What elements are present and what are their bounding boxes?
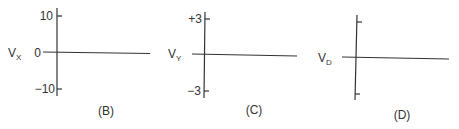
y-axis-label: V bbox=[318, 51, 326, 65]
waveform-diagram: 10 0 −10 V X (B) +3 −3 V Y (C) V D (D) bbox=[0, 0, 459, 129]
y-axis-label-sub: X bbox=[16, 53, 22, 62]
y-axis-label-sub: D bbox=[326, 58, 332, 67]
y-axis-label: V bbox=[8, 46, 16, 60]
trace-line bbox=[192, 54, 297, 56]
panel-caption: (B) bbox=[98, 104, 114, 118]
y-axis-label: V bbox=[168, 47, 176, 61]
tick-label-zero: 0 bbox=[34, 46, 41, 60]
tick-label-top: +3 bbox=[188, 12, 202, 26]
tick-label-bottom: −10 bbox=[35, 82, 56, 96]
panel-c: +3 −3 V Y (C) bbox=[168, 12, 297, 117]
panel-b: 10 0 −10 V X (B) bbox=[8, 8, 150, 118]
panel-caption: (D) bbox=[394, 108, 411, 122]
panel-d: V D (D) bbox=[318, 15, 449, 122]
tick-label-bottom: −3 bbox=[187, 84, 201, 98]
trace-line bbox=[43, 52, 150, 54]
y-axis-label-sub: Y bbox=[176, 54, 182, 63]
panel-caption: (C) bbox=[246, 103, 263, 117]
trace-line bbox=[342, 57, 449, 59]
y-axis bbox=[204, 12, 205, 98]
tick-label-top: 10 bbox=[40, 9, 54, 23]
